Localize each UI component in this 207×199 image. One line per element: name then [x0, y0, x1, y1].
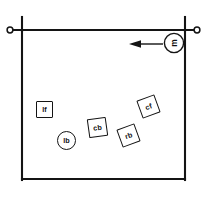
position-marker-cb: cb: [87, 117, 108, 138]
position-marker-label: cf: [144, 102, 153, 111]
position-marker-label: rb: [124, 131, 133, 140]
goal-posts: [22, 17, 185, 31]
diagram-line-layer: m: [0, 0, 207, 199]
position-marker-label: lf: [42, 106, 47, 113]
bar-end-ring-right: [194, 27, 200, 33]
bar-end-ring-left: [7, 27, 13, 33]
position-marker-label: lb: [63, 137, 70, 144]
position-marker-lf: lf: [36, 101, 53, 118]
direction-arrow: [129, 40, 163, 48]
diagram-canvas: m lflbcbrbcf: [0, 0, 207, 199]
callout-label-m: m: [169, 39, 179, 46]
position-marker-lb: lb: [57, 131, 76, 150]
position-marker-label: cb: [93, 124, 103, 132]
callout-marker-m: m: [164, 33, 183, 52]
